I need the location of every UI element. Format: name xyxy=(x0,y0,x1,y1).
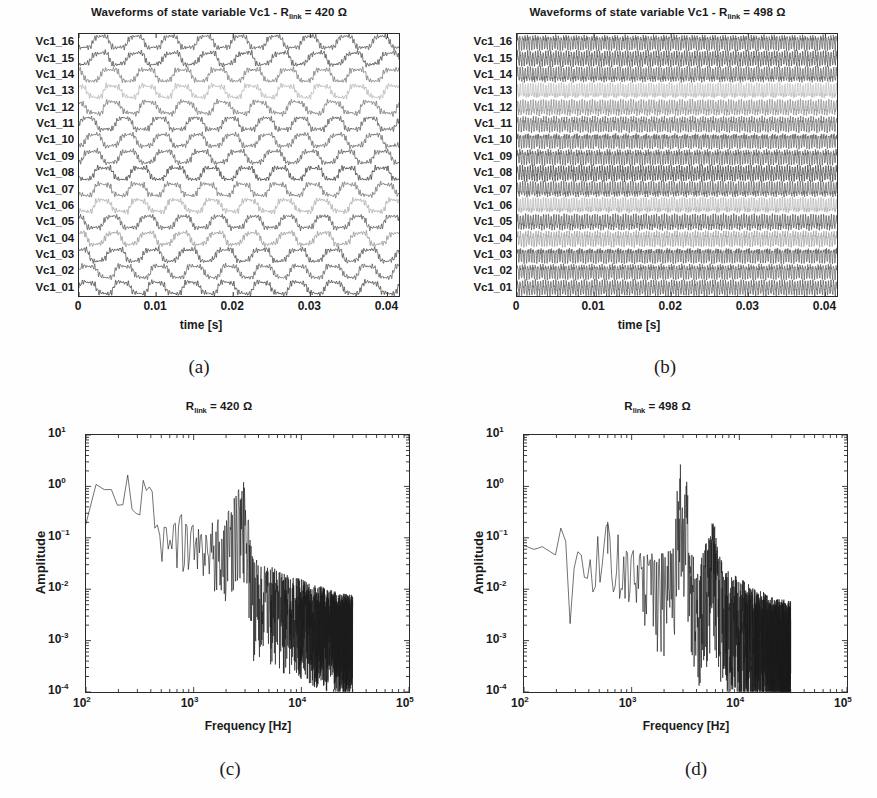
panel-a-caption: (a) xyxy=(169,356,229,378)
y-log-tick-0: 101 xyxy=(486,426,504,440)
y-log-tick-4: 10-3 xyxy=(48,632,68,646)
y-tick-vc1_06: Vc1_06 xyxy=(0,199,74,211)
y-tick-vc1_11: Vc1_11 xyxy=(438,117,512,129)
y-tick-vc1_04: Vc1_04 xyxy=(438,232,512,244)
y-tick-vc1_16: Vc1_16 xyxy=(438,35,512,47)
y-tick-vc1_10: Vc1_10 xyxy=(0,133,74,145)
x-log-tick-0: 102 xyxy=(73,696,91,710)
y-tick-vc1_06: Vc1_06 xyxy=(438,199,512,211)
x-log-tick-3: 105 xyxy=(396,696,414,710)
x-tick-2: 0.02 xyxy=(659,299,682,313)
x-tick-1: 0.01 xyxy=(143,299,166,313)
y-tick-vc1_02: Vc1_02 xyxy=(0,264,74,276)
y-tick-vc1_13: Vc1_13 xyxy=(0,84,74,96)
y-log-tick-2: 10⁻1 xyxy=(48,529,70,543)
x-tick-3: 0.03 xyxy=(298,299,321,313)
y-tick-vc1_01: Vc1_01 xyxy=(0,281,74,293)
x-tick-3: 0.03 xyxy=(736,299,759,313)
panel-c-caption: (c) xyxy=(200,758,260,780)
y-tick-vc1_16: Vc1_16 xyxy=(0,35,74,47)
x-log-tick-1: 103 xyxy=(181,696,199,710)
y-tick-vc1_12: Vc1_12 xyxy=(438,101,512,113)
panel-b-plot-area xyxy=(516,33,838,297)
y-tick-vc1_14: Vc1_14 xyxy=(0,68,74,80)
panel-b-xlabel: time [s] xyxy=(618,318,661,332)
y-tick-vc1_03: Vc1_03 xyxy=(0,248,74,260)
panel-d-caption: (d) xyxy=(666,758,726,780)
y-log-tick-5: 10-4 xyxy=(48,683,68,697)
x-log-tick-0: 102 xyxy=(511,696,529,710)
x-tick-2: 0.02 xyxy=(221,299,244,313)
y-tick-vc1_09: Vc1_09 xyxy=(438,150,512,162)
y-tick-vc1_08: Vc1_08 xyxy=(0,166,74,178)
panel-b-title: Waveforms of state variable Vc1 - Rlink … xyxy=(438,6,877,18)
y-tick-vc1_08: Vc1_08 xyxy=(438,166,512,178)
x-tick-4: 0.04 xyxy=(813,299,836,313)
y-tick-vc1_12: Vc1_12 xyxy=(0,101,74,113)
y-tick-vc1_10: Vc1_10 xyxy=(438,133,512,145)
panel-b-caption: (b) xyxy=(635,356,695,378)
panel-c-xlabel: Frequency [Hz] xyxy=(205,719,292,733)
y-tick-vc1_05: Vc1_05 xyxy=(438,215,512,227)
panel-d: Rlink = 498 Ω 10110010⁻110-210-310-4 102… xyxy=(438,390,877,798)
y-log-tick-1: 100 xyxy=(486,477,504,491)
x-tick-1: 0.01 xyxy=(581,299,604,313)
panel-a-plot-area xyxy=(78,33,400,297)
y-log-tick-2: 10⁻1 xyxy=(486,529,508,543)
y-log-tick-3: 10-2 xyxy=(486,580,506,594)
y-tick-vc1_04: Vc1_04 xyxy=(0,232,74,244)
y-log-tick-1: 100 xyxy=(48,477,66,491)
panel-d-ylabel: Amplitude xyxy=(471,518,486,608)
panel-d-xlabel: Frequency [Hz] xyxy=(643,719,730,733)
y-tick-vc1_15: Vc1_15 xyxy=(438,52,512,64)
y-tick-vc1_14: Vc1_14 xyxy=(438,68,512,80)
x-log-tick-3: 105 xyxy=(834,696,852,710)
y-tick-vc1_13: Vc1_13 xyxy=(438,84,512,96)
panel-c-plot-area xyxy=(85,434,410,693)
y-log-tick-3: 10-2 xyxy=(48,580,68,594)
x-tick-4: 0.04 xyxy=(375,299,398,313)
y-tick-vc1_11: Vc1_11 xyxy=(0,117,74,129)
panel-a-xlabel: time [s] xyxy=(180,318,223,332)
x-log-tick-2: 104 xyxy=(726,696,744,710)
panel-c-ylabel: Amplitude xyxy=(33,518,48,608)
x-tick-0: 0 xyxy=(75,299,82,313)
panel-c-title: Rlink = 420 Ω xyxy=(0,400,438,412)
figure-root: Waveforms of state variable Vc1 - Rlink … xyxy=(0,0,877,798)
y-tick-vc1_09: Vc1_09 xyxy=(0,150,74,162)
panel-d-plot-area xyxy=(523,434,848,693)
y-log-tick-4: 10-3 xyxy=(486,632,506,646)
panel-c: Rlink = 420 Ω 10110010⁻110-210-310-4 102… xyxy=(0,390,438,798)
y-tick-vc1_02: Vc1_02 xyxy=(438,264,512,276)
panel-a-title: Waveforms of state variable Vc1 - Rlink … xyxy=(0,6,438,18)
x-log-tick-1: 103 xyxy=(619,696,637,710)
y-tick-vc1_07: Vc1_07 xyxy=(0,183,74,195)
panel-a: Waveforms of state variable Vc1 - Rlink … xyxy=(0,0,438,390)
y-tick-vc1_05: Vc1_05 xyxy=(0,215,74,227)
y-tick-vc1_15: Vc1_15 xyxy=(0,52,74,64)
y-tick-vc1_03: Vc1_03 xyxy=(438,248,512,260)
panel-b: Waveforms of state variable Vc1 - Rlink … xyxy=(438,0,877,390)
y-tick-vc1_07: Vc1_07 xyxy=(438,183,512,195)
panel-d-title: Rlink = 498 Ω xyxy=(438,400,877,412)
y-log-tick-0: 101 xyxy=(48,426,66,440)
y-tick-vc1_01: Vc1_01 xyxy=(438,281,512,293)
x-log-tick-2: 104 xyxy=(288,696,306,710)
x-tick-0: 0 xyxy=(513,299,520,313)
y-log-tick-5: 10-4 xyxy=(486,683,506,697)
